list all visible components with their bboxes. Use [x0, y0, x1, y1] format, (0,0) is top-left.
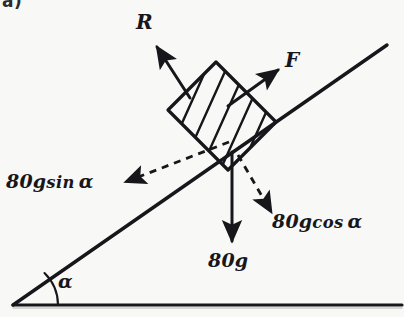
- diagram-canvas: a): [0, 0, 404, 317]
- cos-angle: α: [348, 210, 363, 232]
- label-incline-angle: α: [58, 272, 73, 291]
- sin-function: sin: [46, 173, 74, 192]
- label-normal-reaction: R: [136, 12, 153, 32]
- label-friction-force: F: [285, 50, 300, 70]
- cos-gravity: g: [299, 210, 313, 232]
- sin-angle: α: [79, 170, 94, 192]
- hatched-block: [160, 52, 286, 188]
- weight-magnitude: 80: [208, 249, 235, 271]
- sin-gravity: g: [33, 170, 47, 192]
- vector-normal-reaction: [157, 47, 190, 98]
- label-weight-component-parallel: 80gsin α: [6, 172, 94, 191]
- vector-weight-parallel: [128, 142, 229, 181]
- vector-weight-perpendicular: [238, 155, 270, 210]
- sin-magnitude: 80: [6, 170, 33, 192]
- label-weight-component-perpendicular: 80gcos α: [272, 212, 362, 231]
- ground-line: [13, 305, 402, 308]
- cos-function: cos: [312, 213, 343, 232]
- label-weight: 80g: [208, 251, 248, 270]
- cos-magnitude: 80: [272, 210, 299, 232]
- weight-gravity: g: [235, 249, 249, 271]
